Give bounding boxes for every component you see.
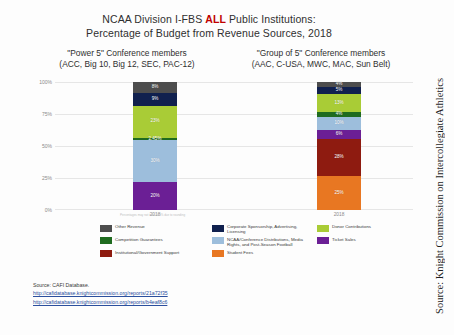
title-part-post: Public Institutions: — [226, 13, 316, 25]
chart-bars: 8%9%23%2.45%30%20% 4%5%13%4%10%6%28%25% — [55, 82, 413, 210]
bar-segment[interactable]: 8% — [133, 82, 177, 93]
source-link-1[interactable]: http://cafidatabase.knightcommission.org… — [33, 289, 263, 298]
stacked-bar-power-5[interactable]: 8%9%23%2.45%30%20% — [133, 82, 177, 210]
subheading-group-of-5-line1: "Group of 5" Conference members — [257, 48, 385, 58]
legend-row: Institutional/Government Support Student… — [100, 250, 415, 258]
page-title: NCAA Division I-FBS ALL Public Instituti… — [0, 12, 418, 40]
chart-page: NCAA Division I-FBS ALL Public Instituti… — [0, 0, 454, 335]
bar-segment[interactable]: 10% — [317, 117, 361, 130]
bar-segment[interactable]: 13% — [317, 94, 361, 112]
legend-swatch-icon — [100, 237, 112, 244]
subheading-group-of-5: "Group of 5" Conference members (AAC, C-… — [224, 48, 418, 70]
bar-segment-label: 5% — [336, 88, 343, 93]
legend-label: Corporate Sponsorship, Advertising, Lice… — [227, 224, 317, 235]
y-axis-tick-label: 100% — [39, 79, 52, 85]
title-line-1: NCAA Division I-FBS ALL Public Instituti… — [0, 12, 418, 26]
subheading-group-of-5-line2: (AAC, C-USA, MWC, MAC, Sun Belt) — [224, 59, 418, 70]
bar-segment[interactable]: 9% — [133, 93, 177, 106]
bar-segment-label: 6% — [336, 132, 343, 137]
bar-segment-label: 9% — [152, 97, 159, 102]
legend-row: Other Revenue Corporate Sponsorship, Adv… — [100, 224, 415, 235]
bar-segment[interactable]: 30% — [133, 140, 177, 182]
y-axis: 100%75%50%25%0% — [28, 82, 54, 210]
bar-segment-label: 25% — [334, 191, 343, 196]
bar-segment[interactable]: 6% — [317, 130, 361, 138]
stacked-bar-group-of-5[interactable]: 4%5%13%4%10%6%28%25% — [317, 82, 361, 210]
title-part-pre: NCAA Division I-FBS — [102, 13, 205, 25]
bar-segment-label: 13% — [334, 101, 343, 106]
rounding-note: Percentages may not total 100% due to ro… — [120, 213, 185, 217]
legend-swatch-icon — [212, 225, 224, 232]
bar-segment-label: 8% — [152, 85, 159, 90]
y-axis-tick-label: 50% — [42, 143, 52, 149]
bar-segment-label: 10% — [334, 121, 343, 126]
source-block: Source: CAFI Database. http://cafidataba… — [33, 281, 263, 307]
legend-label: NCAA/Conference Distributions, Media Rig… — [227, 237, 317, 248]
side-credit: Source: Knight Commission on Intercolleg… — [428, 64, 450, 314]
legend-swatch-icon — [100, 225, 112, 232]
bar-segment[interactable]: 25% — [317, 176, 361, 210]
legend-label: Ticket Sales — [332, 237, 356, 242]
subheading-power-5: "Power 5" Conference members (ACC, Big 1… — [30, 48, 224, 70]
legend-item-institutional-government-support[interactable]: Institutional/Government Support — [100, 250, 212, 258]
subheading-power-5-line1: "Power 5" Conference members — [67, 48, 187, 58]
bar-segment-label: 23% — [150, 119, 159, 124]
legend-item-other-revenue[interactable]: Other Revenue — [100, 224, 212, 235]
legend-label: Other Revenue — [115, 224, 145, 229]
legend-label: Institutional/Government Support — [115, 250, 179, 255]
y-axis-tick-label: 75% — [42, 111, 52, 117]
legend-swatch-icon — [100, 250, 112, 257]
chart-legend: Other Revenue Corporate Sponsorship, Adv… — [100, 224, 415, 259]
legend-item-ncaa-conference-distributions[interactable]: NCAA/Conference Distributions, Media Rig… — [212, 237, 317, 248]
legend-swatch-icon — [212, 237, 224, 244]
legend-label: Donor Contributions — [332, 224, 371, 229]
legend-item-competition-guarantees[interactable]: Competition Guarantees — [100, 237, 212, 248]
bar-segment[interactable]: 5% — [317, 87, 361, 94]
legend-swatch-icon — [212, 250, 224, 257]
bar-segment-label: 30% — [150, 159, 159, 164]
source-label: Source: CAFI Database. — [33, 281, 263, 289]
x-axis: 2018 2018 — [55, 212, 413, 224]
group-subheadings: "Power 5" Conference members (ACC, Big 1… — [30, 48, 418, 70]
bar-segment-label: 28% — [334, 155, 343, 160]
legend-item-student-fees[interactable]: Student Fees — [212, 250, 317, 258]
legend-spacer — [317, 250, 412, 258]
y-axis-tick-label: 0% — [45, 207, 52, 213]
source-link-2[interactable]: http://cafidatabase.knightcommission.org… — [33, 298, 263, 307]
bar-segment[interactable]: 20% — [133, 182, 177, 210]
y-axis-tick-label: 25% — [42, 175, 52, 181]
x-axis-label-group-of-5: 2018 — [317, 212, 361, 217]
legend-swatch-icon — [317, 225, 329, 232]
chart-plot-area: 100%75%50%25%0% 8%9%23%2.45%30%20% 4%5%1… — [28, 82, 413, 210]
bar-segment[interactable]: 28% — [317, 139, 361, 177]
title-line-2: Percentage of Budget from Revenue Source… — [0, 26, 418, 40]
legend-item-ticket-sales[interactable]: Ticket Sales — [317, 237, 412, 248]
legend-swatch-icon — [317, 237, 329, 244]
subheading-power-5-line2: (ACC, Big 10, Big 12, SEC, PAC-12) — [30, 59, 224, 70]
legend-row: Competition Guarantees NCAA/Conference D… — [100, 237, 415, 248]
side-credit-text: Source: Knight Commission on Intercolleg… — [434, 78, 445, 314]
legend-item-corporate-sponsorship[interactable]: Corporate Sponsorship, Advertising, Lice… — [212, 224, 317, 235]
bar-segment[interactable]: 23% — [133, 106, 177, 138]
legend-label: Student Fees — [227, 250, 253, 255]
bar-segment-label: 20% — [150, 194, 159, 199]
bar-segment-label: 4% — [336, 112, 343, 117]
legend-item-donor-contributions[interactable]: Donor Contributions — [317, 224, 412, 235]
title-highlight-all: ALL — [205, 13, 226, 25]
legend-label: Competition Guarantees — [115, 237, 163, 242]
